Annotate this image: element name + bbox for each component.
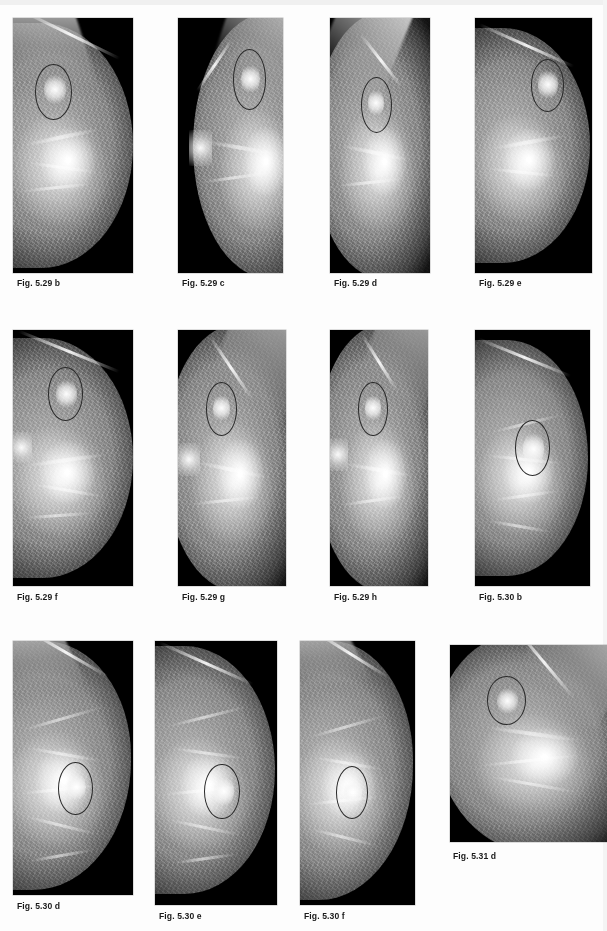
figure-caption: Fig. 5.29 d (334, 278, 377, 288)
figure-fig-5-30-e (155, 641, 277, 905)
figure-caption: Fig. 5.29 c (182, 278, 225, 288)
figure-caption: Fig. 5.29 h (334, 592, 377, 602)
lesion-marker-ring (58, 762, 93, 815)
lesion-marker-ring (358, 382, 387, 436)
mammogram-plate (178, 18, 283, 273)
figure-fig-5-29-f (13, 330, 133, 586)
lesion-marker-ring (206, 382, 237, 436)
mammogram-plate (475, 18, 592, 273)
lesion-marker-ring (515, 420, 551, 476)
figure-fig-5-29-d (330, 18, 430, 273)
mammogram-plate (178, 330, 286, 586)
figure-caption: Fig. 5.29 f (17, 592, 58, 602)
lesion-marker-ring (487, 676, 526, 725)
lesion-marker-ring (233, 49, 267, 110)
mammogram-plate (155, 641, 277, 905)
figure-fig-5-29-g (178, 330, 286, 586)
figure-caption: Fig. 5.31 d (453, 851, 496, 861)
figure-caption: Fig. 5.29 e (479, 278, 522, 288)
lesion-marker-ring (336, 766, 368, 819)
figure-fig-5-31-d (450, 645, 607, 842)
figure-fig-5-30-b (475, 330, 590, 586)
figure-caption: Fig. 5.29 b (17, 278, 60, 288)
mammogram-plate (13, 641, 133, 895)
figure-fig-5-29-c (178, 18, 283, 273)
mammogram-plate (330, 18, 430, 273)
scan-edge-top (0, 0, 607, 5)
lesion-marker-ring (48, 367, 83, 421)
figure-fig-5-29-h (330, 330, 428, 586)
figure-fig-5-29-b (13, 18, 133, 273)
mammogram-plate (450, 645, 607, 842)
figure-fig-5-29-e (475, 18, 592, 273)
figure-caption: Fig. 5.30 b (479, 592, 522, 602)
figure-caption: Fig. 5.29 g (182, 592, 225, 602)
figure-fig-5-30-f (300, 641, 415, 905)
figure-caption: Fig. 5.30 d (17, 901, 60, 911)
lesion-marker-ring (361, 77, 392, 133)
figure-caption: Fig. 5.30 e (159, 911, 202, 921)
mammogram-plate (300, 641, 415, 905)
figure-page: Fig. 5.29 b Fig. 5.29 c Fig. 5.29 d (0, 0, 607, 931)
mammogram-plate (13, 18, 133, 273)
figure-fig-5-30-d (13, 641, 133, 895)
lesion-marker-ring (204, 764, 239, 819)
mammogram-plate (13, 330, 133, 586)
figure-caption: Fig. 5.30 f (304, 911, 345, 921)
mammogram-plate (475, 330, 590, 586)
mammogram-plate (330, 330, 428, 586)
